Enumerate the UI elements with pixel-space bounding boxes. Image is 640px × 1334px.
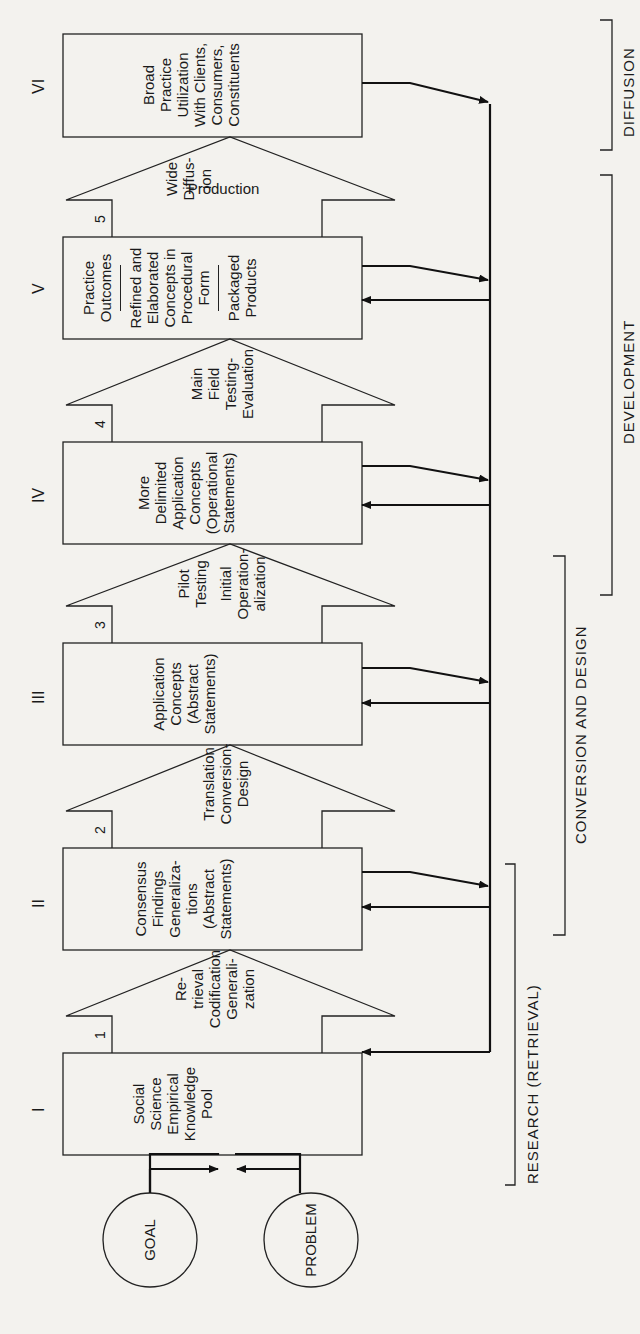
transition-3-number: 3: [92, 621, 108, 629]
stage-3-numeral: III: [30, 691, 48, 704]
stage-1-numeral: I: [30, 1108, 48, 1112]
phase-diffusion: DIFFUSION: [620, 47, 637, 137]
phase-conversion-design: CONVERSION AND DESIGN: [572, 625, 589, 844]
stage-6-numeral: VI: [30, 79, 48, 94]
stage-5-label: PracticeOutcomes Refined andElaboratedCo…: [80, 239, 259, 337]
stage-3-label: ApplicationConcepts(AbstractStatements): [150, 646, 218, 742]
diagram-lines: [0, 0, 640, 1334]
problem-input: PROBLEM: [302, 1190, 319, 1290]
stage-5-numeral: V: [30, 283, 48, 294]
transition-1-number: 1: [92, 1031, 108, 1039]
stage-4-label: MoreDelimitedApplicationConcepts(Operati…: [135, 444, 237, 542]
stage-2-label: ConsensusFindingsGeneraliza-tions(Abstra…: [132, 851, 234, 947]
transition-2-number: 2: [92, 826, 108, 834]
goal-input: GOAL: [141, 1200, 158, 1280]
stage-2-numeral: II: [30, 899, 48, 908]
transition-1-label: Re-trievalCodificationGenerali-zation: [172, 944, 257, 1034]
transition-4-number: 4: [92, 420, 108, 428]
transition-5-number: 5: [92, 215, 108, 223]
research-to-practice-diagram: GOAL PROBLEM I II III IV V VI SocialScie…: [0, 0, 640, 1334]
transition-5-production-label: Production: [215, 164, 232, 224]
phase-research: RESEARCH (RETRIEVAL): [524, 984, 541, 1184]
transition-4-label: MainFieldTesting-Evaluation: [188, 339, 256, 429]
stage-1-label: SocialScienceEmpiricalKnowledgePool: [130, 1056, 215, 1152]
stage-4-numeral: IV: [30, 488, 48, 503]
phase-development: DEVELOPMENT: [620, 320, 637, 444]
transition-3-label: PilotTestingInitialOperation-alization: [175, 539, 268, 629]
transition-2-label: TranslationConversion-Design: [200, 739, 251, 829]
stage-6-label: BroadPracticeUtilizationWith Clients,Con…: [140, 35, 242, 135]
